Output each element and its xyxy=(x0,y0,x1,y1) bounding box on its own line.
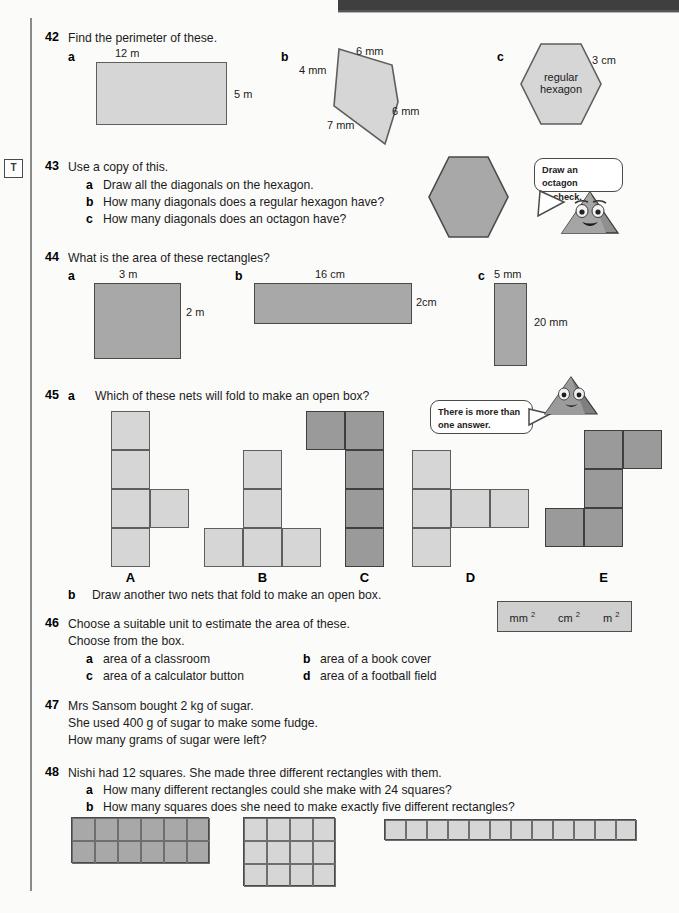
q42a-top-label: 12 m xyxy=(115,47,139,59)
q48-grid-cell xyxy=(95,818,118,841)
question-46d-text: area of a football field xyxy=(320,669,437,683)
question-43a-text: Draw all the diagonals on the hexagon. xyxy=(103,178,314,192)
q44c-top-label: 5 mm xyxy=(494,268,522,280)
net-label-c: C xyxy=(345,570,384,585)
q42a-rectangle xyxy=(96,62,227,125)
question-44-number: 44 xyxy=(45,250,59,264)
net-d-cell xyxy=(412,450,451,489)
q43-hint-line1: Draw an octagon xyxy=(542,165,578,188)
cone-character-icon xyxy=(540,375,602,417)
net-d-cell xyxy=(412,528,451,567)
q48-grid-cell xyxy=(244,841,267,864)
q48-grid-cell xyxy=(141,841,164,864)
question-42c-letter: c xyxy=(497,50,504,64)
net-c-cell xyxy=(306,411,345,450)
question-46a-text: area of a classroom xyxy=(103,652,210,666)
q48-grid-cell xyxy=(553,820,574,841)
q48-grid-cell xyxy=(469,820,490,841)
net-e-cell xyxy=(584,430,623,469)
net-a-cell xyxy=(111,528,150,567)
q48-grid-cell xyxy=(511,820,532,841)
question-48a-text: How many different rectangles could she … xyxy=(103,783,452,797)
q48-grid-cell xyxy=(290,818,313,841)
net-e-cell xyxy=(584,469,623,508)
question-46c-letter: c xyxy=(86,669,93,683)
question-45b-text: Draw another two nets that fold to make … xyxy=(92,588,381,602)
question-45b-letter: b xyxy=(68,588,75,602)
q45-hint-bubble: There is more than one answer. xyxy=(430,400,533,434)
net-d-cell xyxy=(451,489,490,528)
q48-grid-cell xyxy=(141,818,164,841)
q48-grid-cell xyxy=(448,820,469,841)
unit-option-mm: mm 2 xyxy=(510,610,536,624)
question-46-stem-line1: Choose a suitable unit to estimate the a… xyxy=(68,617,350,631)
q48-grid-cell xyxy=(164,841,187,864)
q48-rectangle-4x3 xyxy=(243,817,335,886)
question-48-number: 48 xyxy=(45,765,59,779)
question-47-line3: How many grams of sugar were left? xyxy=(68,733,266,747)
q45-hint-line2: one answer. xyxy=(438,420,491,430)
question-48a-letter: a xyxy=(86,783,93,797)
net-a-cell xyxy=(111,489,150,528)
question-44-stem: What is the area of these rectangles? xyxy=(68,251,270,265)
question-44b-letter: b xyxy=(235,269,242,283)
q44c-rectangle xyxy=(494,283,527,366)
q42c-inner-line1: regular xyxy=(529,71,593,83)
q42b-quadrilateral xyxy=(320,44,430,149)
net-b-cell xyxy=(243,489,282,528)
q48-grid-cell xyxy=(72,841,95,864)
net-c-cell xyxy=(345,489,384,528)
question-43b-text: How many diagonals does a regular hexago… xyxy=(103,195,384,209)
q42a-right-label: 5 m xyxy=(234,88,252,100)
question-43-stem: Use a copy of this. xyxy=(68,160,168,174)
q48-grid-cell xyxy=(267,818,290,841)
net-label-b: B xyxy=(243,570,282,585)
q48-grid-cell xyxy=(290,864,313,887)
net-a-cell xyxy=(150,489,189,528)
net-a-cell xyxy=(111,450,150,489)
question-43a-letter: a xyxy=(86,178,93,192)
question-48b-letter: b xyxy=(86,800,93,814)
question-48b-text: How many squares does she need to make e… xyxy=(103,800,515,814)
question-46a-letter: a xyxy=(86,652,93,666)
q48-grid-cell xyxy=(267,864,290,887)
q48-grid-cell xyxy=(385,820,406,841)
q44c-right-label: 20 mm xyxy=(534,316,568,328)
q48-grid-cell xyxy=(164,818,187,841)
q45-hint-line1: There is more than xyxy=(438,407,520,417)
q43-hint-bubble: Draw an octagon to check. xyxy=(534,158,623,192)
triangle-character-icon xyxy=(556,190,622,236)
q42b-bottom-label: 7 mm xyxy=(327,119,355,131)
q48-grid-cell xyxy=(118,818,141,841)
net-c-cell xyxy=(345,450,384,489)
question-48-stem: Nishi had 12 squares. She made three dif… xyxy=(68,766,442,780)
question-45a-text: Which of these nets will fold to make an… xyxy=(95,389,369,403)
q44a-rectangle xyxy=(94,283,181,359)
net-label-d: D xyxy=(451,570,490,585)
q42b-top-label: 6 mm xyxy=(356,45,384,57)
q48-grid-cell xyxy=(290,841,313,864)
unit-options-box: mm 2 cm 2 m 2 xyxy=(497,601,632,632)
q48-grid-cell xyxy=(574,820,595,841)
q48-grid-cell xyxy=(244,818,267,841)
q43-hexagon xyxy=(426,154,512,240)
q48-grid-cell xyxy=(313,864,336,887)
net-b-cell xyxy=(243,450,282,489)
question-46-number: 46 xyxy=(45,616,59,630)
worksheet-page: T 42 Find the perimeter of these. a 12 m… xyxy=(0,0,679,913)
question-44a-letter: a xyxy=(68,269,75,283)
unit-option-cm: cm 2 xyxy=(558,610,580,624)
q44b-rectangle xyxy=(254,283,412,324)
q48-grid-cell xyxy=(427,820,448,841)
net-e-cell xyxy=(584,508,623,547)
left-margin-rule xyxy=(30,18,32,891)
question-43c-letter: c xyxy=(86,212,93,226)
page-header-band xyxy=(338,0,679,12)
q48-rectangle-6x2 xyxy=(71,817,209,863)
question-42b-letter: b xyxy=(281,50,288,64)
q48-grid-cell xyxy=(490,820,511,841)
q42c-inner-line2: hexagon xyxy=(529,83,593,95)
unit-option-m: m 2 xyxy=(603,610,619,624)
question-46b-letter: b xyxy=(303,652,310,666)
question-46-stem-line2: Choose from the box. xyxy=(68,634,185,648)
